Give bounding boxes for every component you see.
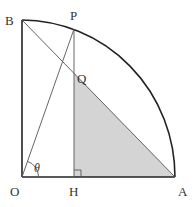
quarter-circle-diagram: B P Q O H A θ	[0, 0, 196, 207]
label-P: P	[70, 8, 77, 23]
label-theta: θ	[34, 161, 40, 175]
label-Q: Q	[77, 71, 87, 86]
label-A: A	[178, 184, 188, 199]
label-H: H	[69, 184, 78, 199]
label-B: B	[5, 13, 14, 28]
label-O: O	[10, 184, 19, 199]
segment-OP	[22, 29, 74, 177]
